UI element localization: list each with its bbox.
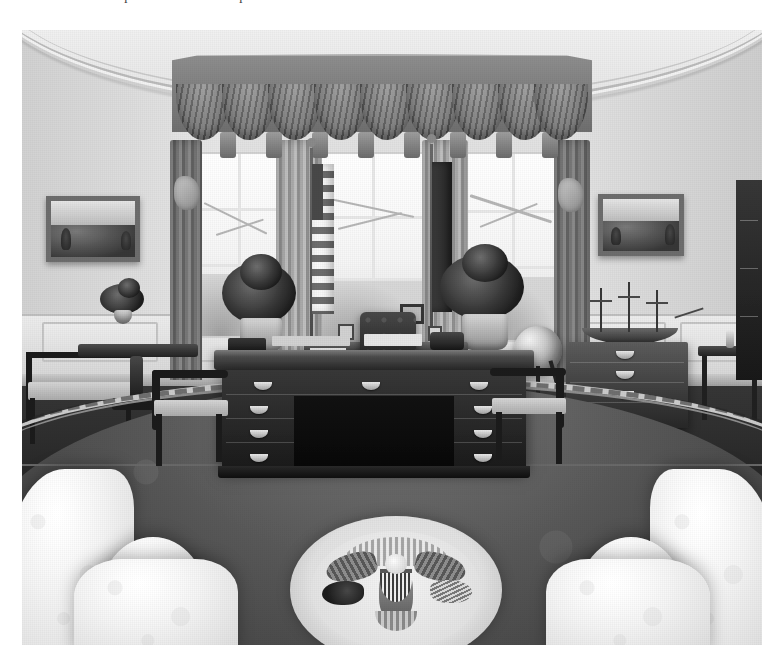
painting-right-wall — [598, 194, 684, 256]
desk-telephone — [430, 332, 464, 350]
presidential-seal — [290, 516, 502, 645]
text-remnant-2: l — [239, 0, 243, 7]
resolute-desk — [214, 346, 534, 486]
cropped-text-remnants: l l — [0, 0, 781, 9]
painting-left-wall — [46, 196, 140, 262]
desk-papers — [364, 334, 422, 346]
sofa-foreground-left — [22, 465, 232, 645]
oval-office-photograph — [22, 30, 762, 645]
desk-papers — [272, 336, 350, 346]
drapery-tieback — [558, 178, 584, 212]
drapery-tieback — [174, 176, 200, 210]
seal-eagle-head — [385, 554, 406, 573]
seal-arrows — [430, 580, 472, 604]
text-remnant-1: l — [124, 0, 128, 7]
valance-swags — [172, 54, 592, 136]
seal-olive-branch — [322, 581, 364, 605]
sofa-foreground-right — [552, 465, 762, 645]
flower-arrangement-left — [94, 282, 152, 326]
bookcase-right — [736, 180, 762, 380]
table-lamp-icon — [726, 330, 734, 348]
page-canvas: l l — [0, 0, 781, 661]
